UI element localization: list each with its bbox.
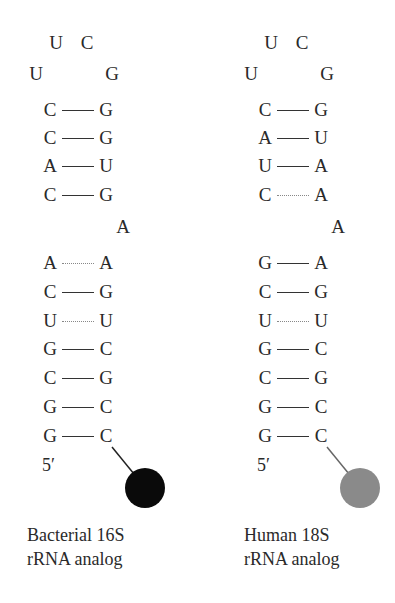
caption-line-2: rRNA analog (244, 547, 339, 571)
caption-line-1: Human 18S (244, 523, 330, 547)
bead-circle (125, 468, 165, 508)
bead-tether (215, 0, 395, 603)
bacterial-16s-panel: UCUGCGCGAUCGAAACGUUGCCGGCGC5′Bacterial 1… (0, 0, 197, 603)
bead-circle (340, 468, 380, 508)
bead-tether (0, 0, 197, 603)
caption-line-2: rRNA analog (27, 547, 122, 571)
caption-line-1: Bacterial 16S (27, 523, 124, 547)
human-18s-panel: UCUGCGAUUACAAGACGUUGCCGGCGC5′Human 18SrR… (215, 0, 395, 603)
